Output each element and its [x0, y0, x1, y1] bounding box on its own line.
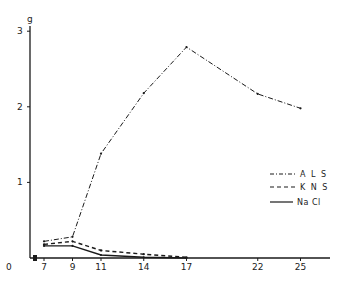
- x-tick-label: 9: [70, 262, 76, 272]
- legend-item-nacl: Na Cl: [270, 198, 321, 207]
- data-point: [143, 253, 145, 255]
- legend-item-kns: K N S: [270, 183, 329, 192]
- legend-label-als: A L S: [300, 170, 328, 179]
- y-unit-label: g: [27, 14, 33, 24]
- x-tick-label: 17: [181, 262, 192, 272]
- y-tick-label: 3: [17, 26, 23, 36]
- data-point: [43, 245, 45, 247]
- data-point: [143, 256, 145, 258]
- x-tick-label: 22: [252, 262, 263, 272]
- y-tick-label: 2: [17, 102, 23, 112]
- axis-break-marker: [33, 255, 37, 261]
- data-point: [185, 46, 187, 48]
- legend-item-als: A L S: [270, 170, 328, 179]
- data-point: [71, 236, 73, 238]
- legend-label-kns: K N S: [300, 183, 329, 192]
- series-line-als: [44, 47, 301, 241]
- legend: A L S K N S Na Cl: [270, 170, 329, 207]
- data-point: [100, 249, 102, 251]
- x-tick-label: 11: [95, 262, 106, 272]
- legend-label-nacl: Na Cl: [297, 198, 321, 207]
- data-point: [100, 254, 102, 256]
- line-chart: 321 791114172225 g 0 A L S K N S Na Cl: [0, 0, 348, 287]
- y-tick-label: 1: [17, 177, 23, 187]
- x-tick-label: 14: [138, 262, 150, 272]
- data-point: [257, 93, 259, 95]
- x-ticks: 791114172225: [41, 258, 306, 272]
- data-point: [143, 92, 145, 94]
- series-line-kns: [44, 241, 187, 257]
- data-point: [71, 245, 73, 247]
- x-tick-label: 7: [41, 262, 47, 272]
- data-point: [185, 257, 187, 259]
- x-tick-label: 25: [295, 262, 306, 272]
- data-point: [299, 107, 301, 109]
- origin-label: 0: [6, 262, 12, 272]
- data-point: [43, 240, 45, 242]
- y-ticks: 321: [17, 26, 30, 187]
- data-series: [43, 46, 302, 259]
- axes: [30, 26, 330, 258]
- data-point: [71, 240, 73, 242]
- data-point: [100, 153, 102, 155]
